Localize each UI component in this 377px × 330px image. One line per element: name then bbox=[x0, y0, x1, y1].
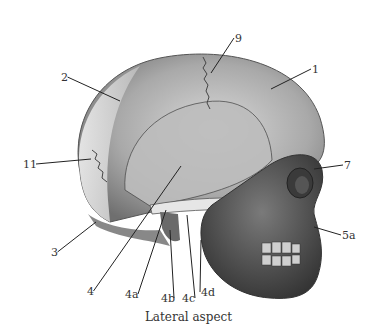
figure-caption: Lateral aspect bbox=[0, 310, 377, 324]
skull-illustration bbox=[0, 0, 377, 330]
label-4: 4 bbox=[87, 286, 94, 297]
leader-line-4c bbox=[187, 215, 195, 298]
label-5a: 5a bbox=[342, 230, 356, 241]
label-4c: 4c bbox=[182, 293, 195, 304]
label-4a: 4a bbox=[125, 289, 139, 300]
label-7: 7 bbox=[344, 160, 351, 171]
label-1: 1 bbox=[312, 64, 319, 75]
label-9: 9 bbox=[235, 33, 242, 44]
label-4b: 4b bbox=[161, 293, 175, 304]
leader-line-3 bbox=[58, 222, 97, 252]
label-4d: 4d bbox=[201, 287, 215, 298]
label-11: 11 bbox=[23, 159, 37, 170]
label-2: 2 bbox=[61, 72, 68, 83]
leader-line-4a bbox=[138, 210, 166, 294]
label-3: 3 bbox=[51, 247, 58, 258]
leader-line-4d bbox=[200, 240, 201, 292]
occipital-base bbox=[88, 214, 170, 246]
